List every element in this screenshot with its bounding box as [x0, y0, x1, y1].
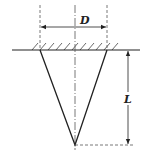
- cone-outline: [40, 50, 107, 145]
- cone-diagram: D L: [0, 0, 146, 157]
- diameter-label: D: [79, 14, 90, 27]
- length-label: L: [123, 93, 132, 106]
